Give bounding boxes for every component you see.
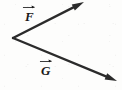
vector-f-shaft: [13, 5, 77, 38]
vector-g-arrow: [13, 38, 117, 81]
vector-g-label: G: [41, 64, 50, 77]
vector-f-label: F: [25, 10, 34, 23]
vector-g-shaft: [13, 38, 110, 78]
vector-g-label-text: G: [41, 64, 50, 77]
vector-diagram-figure: F G: [0, 0, 122, 90]
vector-f-label-text: F: [25, 10, 34, 23]
vector-f-arrowhead: [72, 2, 84, 10]
vector-diagram-canvas: [0, 0, 122, 90]
vector-g-arrowhead: [105, 73, 117, 81]
vector-f-arrow: [13, 2, 84, 38]
